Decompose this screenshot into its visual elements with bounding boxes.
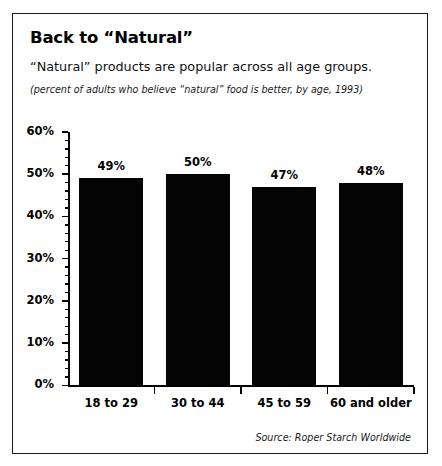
y-tick-label: 10% xyxy=(26,335,54,349)
y-tick-minor xyxy=(65,283,69,284)
bar[interactable] xyxy=(252,187,316,385)
y-tick-minor xyxy=(65,182,69,183)
bar-value-label: 50% xyxy=(155,155,242,169)
bar-value-label: 48% xyxy=(328,164,415,178)
y-tick-minor xyxy=(65,140,69,141)
y-tick-label: 60% xyxy=(26,124,54,138)
y-tick-minor xyxy=(65,207,69,208)
y-tick-minor xyxy=(65,368,69,369)
chart-frame: Back to “Natural” “Natural” products are… xyxy=(12,13,428,454)
y-tick-minor xyxy=(65,309,69,310)
y-tick-label: 30% xyxy=(26,251,54,265)
y-tick-major xyxy=(62,300,68,302)
y-tick-minor xyxy=(65,351,69,352)
bar-value-label: 47% xyxy=(241,168,328,182)
bar[interactable] xyxy=(166,174,230,385)
y-tick-minor xyxy=(65,266,69,267)
y-tick-minor xyxy=(65,359,69,360)
y-tick-label: 20% xyxy=(26,293,54,307)
y-tick-label: 40% xyxy=(26,208,54,222)
y-tick-minor xyxy=(65,376,69,377)
y-tick-minor xyxy=(65,148,69,149)
y-tick-major xyxy=(62,385,68,387)
y-tick-minor xyxy=(65,334,69,335)
y-tick-minor xyxy=(65,190,69,191)
y-tick-minor xyxy=(65,224,69,225)
x-category-label: 45 to 59 xyxy=(241,396,328,410)
bar[interactable] xyxy=(79,178,143,385)
plot-area: 0%10%20%30%40%50%60% 49%18 to 2950%30 to… xyxy=(13,14,429,455)
y-tick-major xyxy=(62,216,68,218)
y-tick-minor xyxy=(65,157,69,158)
x-category-label: 30 to 44 xyxy=(155,396,242,410)
y-tick-minor xyxy=(65,199,69,200)
source-note: Source: Roper Starch Worldwide xyxy=(255,432,411,443)
x-category-label: 60 and older xyxy=(328,396,415,410)
y-tick-minor xyxy=(65,233,69,234)
y-tick-major xyxy=(62,258,68,260)
x-tick xyxy=(154,387,156,394)
bar-value-label: 49% xyxy=(68,159,155,173)
x-category-label: 18 to 29 xyxy=(68,396,155,410)
x-tick xyxy=(240,387,242,394)
y-tick-major xyxy=(62,173,68,175)
x-tick xyxy=(413,387,415,394)
y-tick-minor xyxy=(65,250,69,251)
bar[interactable] xyxy=(339,183,403,386)
y-tick-minor xyxy=(65,241,69,242)
y-tick-label: 50% xyxy=(26,166,54,180)
y-tick-label: 0% xyxy=(34,377,54,391)
y-tick-minor xyxy=(65,317,69,318)
y-tick-minor xyxy=(65,292,69,293)
y-tick-major xyxy=(62,131,68,133)
y-tick-minor xyxy=(65,326,69,327)
y-tick-minor xyxy=(65,275,69,276)
y-tick-major xyxy=(62,342,68,344)
x-tick xyxy=(327,387,329,394)
